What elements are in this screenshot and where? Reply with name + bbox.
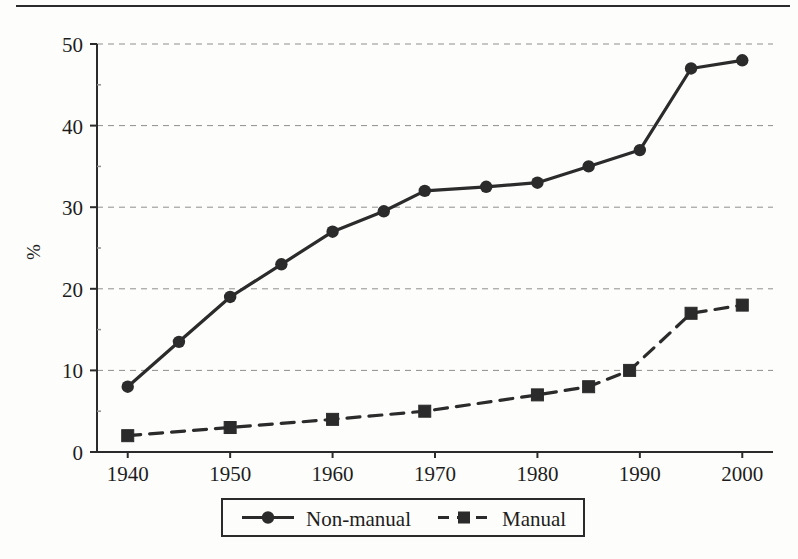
legend-marker xyxy=(262,511,274,523)
x-tick-label-1950: 1950 xyxy=(209,462,251,486)
y-axis-title: % xyxy=(23,244,44,260)
series-manual xyxy=(122,299,749,442)
y-tick-marks-group xyxy=(90,44,101,452)
y-tick-label-20: 20 xyxy=(62,278,83,302)
data-point xyxy=(685,307,697,319)
y-tick-label-50: 50 xyxy=(62,33,83,57)
data-point xyxy=(582,160,594,172)
x-axis-tick-labels: 1940195019601970198019902000 xyxy=(107,462,764,486)
series-non-manual xyxy=(122,54,749,393)
chart-legend: Non-manualManual xyxy=(222,499,584,536)
data-point xyxy=(634,144,646,156)
data-point xyxy=(685,62,697,74)
axes-group xyxy=(97,44,773,452)
legend-label: Manual xyxy=(502,507,566,531)
y-tick-label-30: 30 xyxy=(62,196,83,220)
data-point xyxy=(419,405,431,417)
x-tick-label-1970: 1970 xyxy=(414,462,456,486)
y-tick-label-40: 40 xyxy=(62,115,83,139)
data-point xyxy=(122,430,134,442)
figure-container: 01020304050 1940195019601970198019902000… xyxy=(0,0,798,559)
y-tick-label-10: 10 xyxy=(62,359,83,383)
data-point xyxy=(624,364,636,376)
data-point xyxy=(327,413,339,425)
x-tick-label-1980: 1980 xyxy=(516,462,558,486)
data-point xyxy=(583,381,595,393)
data-point xyxy=(173,336,185,348)
data-point xyxy=(122,381,134,393)
line-chart: 01020304050 1940195019601970198019902000… xyxy=(0,0,798,559)
data-point xyxy=(224,291,236,303)
legend-entry-non-manual[interactable]: Non-manual xyxy=(242,507,411,531)
data-point xyxy=(378,205,390,217)
legend-marker xyxy=(458,512,470,524)
y-tick-label-0: 0 xyxy=(73,441,84,465)
series-line xyxy=(128,60,743,386)
x-tick-label-1940: 1940 xyxy=(107,462,149,486)
x-tick-label-1960: 1960 xyxy=(312,462,354,486)
y-axis-tick-labels: 01020304050 xyxy=(62,33,83,465)
data-series-layer xyxy=(122,54,749,442)
x-tick-label-1990: 1990 xyxy=(619,462,661,486)
data-point xyxy=(275,258,287,270)
data-point xyxy=(736,299,748,311)
data-point xyxy=(480,181,492,193)
legend-label: Non-manual xyxy=(306,507,411,531)
legend-entry-manual[interactable]: Manual xyxy=(438,507,566,531)
data-point xyxy=(326,225,338,237)
data-point xyxy=(531,389,543,401)
data-point xyxy=(736,54,748,66)
data-point xyxy=(531,177,543,189)
data-point xyxy=(224,422,236,434)
data-point xyxy=(419,185,431,197)
x-tick-label-2000: 2000 xyxy=(721,462,763,486)
gridlines-group xyxy=(97,44,773,370)
